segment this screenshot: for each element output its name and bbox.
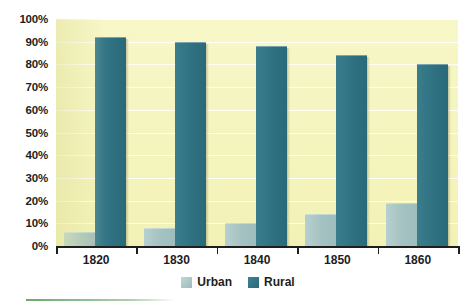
y-axis-tick-label: 70% [26,81,48,93]
y-axis: 0%10%20%30%40%50%60%70%80%90%100% [0,0,52,265]
bar-group [378,19,458,246]
bar-urban-1860 [386,203,417,246]
x-axis-tick-label: 1860 [404,253,431,267]
x-axis-tick-label: 1820 [83,253,110,267]
y-axis-tick-label: 90% [26,36,48,48]
bar-rural-1850 [336,55,367,246]
bar-urban-1820 [64,232,95,246]
rural-swatch [248,277,259,288]
chart-page: 0%10%20%30%40%50%60%70%80%90%100% 182018… [0,0,476,303]
y-axis-tick-label: 0% [32,240,48,252]
bar-rural-1830 [175,42,206,246]
bar-group [297,19,377,246]
y-axis-tick-label: 10% [26,217,48,229]
y-axis-tick-label: 20% [26,195,48,207]
x-axis-tick [458,246,460,254]
urban-swatch [181,277,192,288]
x-axis-tick-label: 1830 [163,253,190,267]
x-axis-tick [297,246,299,254]
y-axis-tick-label: 60% [26,104,48,116]
x-axis-tick [136,246,138,254]
bar-urban-1840 [225,223,256,246]
x-axis-tick-label: 1840 [244,253,271,267]
x-axis-tick-label: 1850 [324,253,351,267]
plot-area [56,19,458,246]
y-axis-tick-label: 40% [26,149,48,161]
legend-label: Urban [197,275,232,289]
x-axis-tick [378,246,380,254]
x-axis: 18201830184018501860 [56,253,458,271]
chart-legend: UrbanRural [0,275,476,289]
x-axis-tick [217,246,219,254]
legend-item-rural[interactable]: Rural [248,275,295,289]
bar-group [56,19,136,246]
bar-rural-1860 [417,64,448,246]
page-rule-decoration [26,299,176,301]
y-axis-tick-label: 30% [26,172,48,184]
bar-group [217,19,297,246]
legend-label: Rural [264,275,295,289]
legend-item-urban[interactable]: Urban [181,275,232,289]
y-axis-tick-label: 100% [19,13,48,25]
bar-group [136,19,216,246]
bar-rural-1820 [95,37,126,246]
bar-urban-1850 [305,214,336,246]
bar-urban-1830 [144,228,175,246]
x-axis-tick [56,246,58,254]
bar-rural-1840 [256,46,287,246]
x-axis-line [56,246,458,248]
y-axis-tick-label: 80% [26,58,48,70]
y-axis-tick-label: 50% [26,127,48,139]
